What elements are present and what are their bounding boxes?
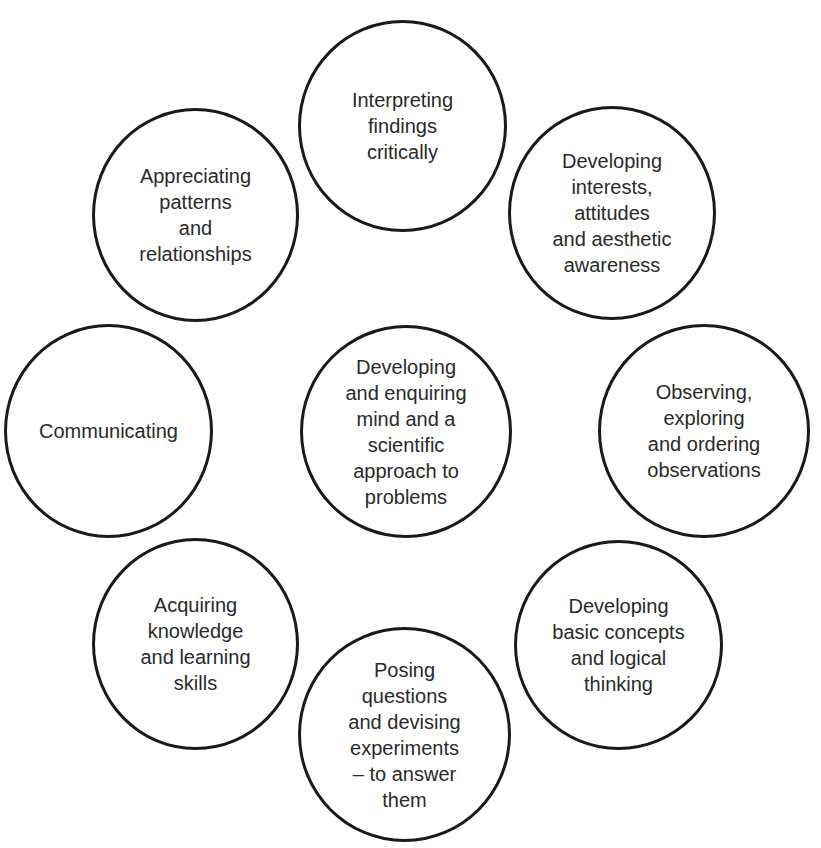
circle-observing-exploring: Observing, exploring and ordering observ… <box>598 324 810 538</box>
circle-communicating: Communicating <box>4 324 213 538</box>
circle-label: Interpreting findings critically <box>352 87 453 165</box>
circle-label: Developing and enquiring mind and a scie… <box>345 354 466 510</box>
circle-basic-concepts: Developing basic concepts and logical th… <box>514 540 723 750</box>
circle-posing-questions: Posing questions and devising experiment… <box>298 627 511 842</box>
circle-center-scientific-mind: Developing and enquiring mind and a scie… <box>300 325 512 538</box>
circle-acquiring-knowledge: Acquiring knowledge and learning skills <box>92 538 299 750</box>
circle-developing-interests: Developing interests, attitudes and aest… <box>508 106 716 320</box>
circle-label: Appreciating patterns and relationships <box>139 163 251 267</box>
circle-interpreting-findings: Interpreting findings critically <box>298 20 507 232</box>
circle-label: Acquiring knowledge and learning skills <box>140 592 250 696</box>
circle-label: Communicating <box>39 418 178 444</box>
circle-label: Posing questions and devising experiment… <box>348 657 460 813</box>
circle-label: Observing, exploring and ordering observ… <box>647 379 760 483</box>
circle-appreciating-patterns: Appreciating patterns and relationships <box>92 108 299 322</box>
circle-label: Developing interests, attitudes and aest… <box>553 148 672 278</box>
circle-label: Developing basic concepts and logical th… <box>552 593 684 697</box>
